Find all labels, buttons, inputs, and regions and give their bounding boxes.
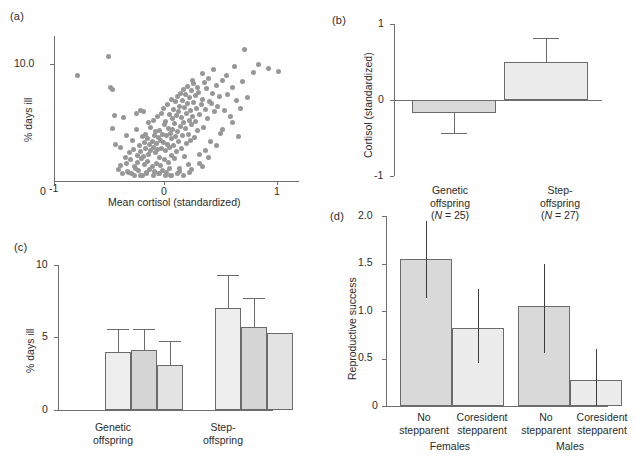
scatter-dot — [240, 79, 245, 84]
scatter-dot — [186, 132, 191, 137]
scatter-dot — [188, 108, 193, 113]
scatter-dot — [251, 70, 256, 75]
scatter-dot — [224, 73, 229, 78]
panel-c-group-1-line1: Step- — [210, 421, 235, 433]
panel-c-group-0-line2: offspring — [93, 434, 133, 446]
scatter-dot — [238, 106, 243, 111]
panel-c-bar — [241, 327, 267, 410]
scatter-dot — [236, 134, 241, 139]
scatter-dot — [169, 173, 174, 178]
scatter-dot — [242, 47, 247, 52]
panel-c-errorbar-cap — [107, 329, 129, 330]
panel-b-y-tick-neg1: -1 — [374, 169, 383, 181]
panel-c-group-1-line2: offspring — [203, 434, 243, 446]
panel-c-bar — [267, 333, 293, 410]
scatter-dot — [256, 62, 261, 67]
panel-c-bar — [157, 365, 183, 410]
panel-b-errorbar-cap — [533, 38, 559, 39]
scatter-dot — [206, 155, 211, 160]
panel-c-errorbar-cap — [243, 298, 265, 299]
scatter-dot — [151, 173, 156, 178]
panel-a-plot-area: 10.0 0 -1 0 1 — [54, 36, 299, 181]
panel-b-y-tick-mark-neg1 — [390, 176, 394, 177]
scatter-dot — [189, 167, 194, 172]
panel-d-cat-2-line1: No — [539, 411, 552, 423]
panel-c-ylabel: % days ill — [24, 329, 36, 373]
scatter-dot — [110, 126, 115, 131]
panel-b-bar — [504, 62, 588, 100]
scatter-dot — [215, 104, 220, 109]
scatter-dot — [157, 155, 162, 160]
scatter-dot — [210, 91, 215, 96]
scatter-dot — [174, 149, 179, 154]
scatter-dot — [165, 102, 170, 107]
scatter-dot — [185, 101, 190, 106]
figure-panel-grid: (a) % days ill 10.0 0 -1 0 1 Mean cortis… — [0, 0, 636, 461]
scatter-dot — [118, 145, 123, 150]
panel-d-cat-3-line2: stepparent — [577, 424, 627, 436]
scatter-dot — [171, 143, 176, 148]
panel-b-errorbar-stem — [454, 113, 455, 133]
panel-c-errorbar-stem — [170, 341, 171, 365]
scatter-dot — [134, 111, 139, 116]
panel-a-x-axis — [54, 181, 299, 182]
panel-d-errorbar-stem — [478, 289, 479, 362]
scatter-dot — [208, 139, 213, 144]
panel-c-y-tick-0: 0 — [42, 403, 48, 415]
panel-d-cat-1-line1: Coresident — [457, 411, 508, 423]
panel-b-bar: (b) Cortisol (standardized) 1 0 -1 Genet… — [320, 0, 636, 215]
panel-a-x-tick-1: 1 — [274, 185, 280, 197]
scatter-dot — [201, 125, 206, 130]
scatter-dot — [159, 111, 164, 116]
scatter-dot — [212, 109, 217, 114]
panel-b-y-tick-mark-1 — [390, 24, 394, 25]
panel-a-x-tick-neg1: -1 — [49, 182, 58, 194]
panel-d-cat-0-line1: No — [417, 411, 430, 423]
panel-b-errorbar-stem — [546, 38, 547, 62]
scatter-dot — [176, 139, 181, 144]
panel-b-errorbar-cap — [441, 133, 467, 134]
panel-c-errorbar-cap — [133, 329, 155, 330]
panel-c-errorbar-cap — [217, 275, 239, 276]
panel-a-scatter: (a) % days ill 10.0 0 -1 0 1 Mean cortis… — [0, 0, 320, 225]
panel-d-group-males: Males — [534, 440, 606, 452]
scatter-dot — [172, 121, 177, 126]
panel-d-cat-2-line2: stepparent — [521, 424, 571, 436]
panel-d-y-tick-05: 0.5 — [358, 351, 373, 363]
panel-a-y-axis — [54, 36, 55, 181]
scatter-dot — [145, 159, 150, 164]
scatter-dot — [183, 126, 188, 131]
scatter-dot — [173, 99, 178, 104]
panel-d-x-axis — [386, 406, 608, 407]
scatter-dot — [230, 120, 235, 125]
scatter-dot — [180, 133, 185, 138]
scatter-dot — [203, 148, 208, 153]
scatter-dot — [211, 67, 216, 72]
scatter-dot — [167, 166, 172, 171]
panel-a-ylabel: % days ill — [22, 98, 34, 142]
scatter-dot — [202, 80, 207, 85]
panel-b-ylabel: Cortisol (standardized) — [362, 52, 374, 158]
panel-d-y-tick-mark-10 — [382, 311, 386, 312]
scatter-dot — [141, 109, 146, 114]
panel-c-errorbar-stem — [118, 329, 119, 352]
scatter-dot — [200, 164, 205, 169]
panel-c-bar: (c) % days ill 10 5 0 Genetic offspring … — [0, 225, 320, 461]
scatter-dot — [206, 76, 211, 81]
panel-a-xlabel: Mean cortisol (standardized) — [108, 196, 240, 208]
panel-c-y-tick-mark-0 — [54, 410, 58, 411]
panel-a-label: (a) — [10, 10, 24, 22]
panel-d-y-tick-10: 1.0 — [358, 304, 373, 316]
scatter-dot — [232, 64, 237, 69]
panel-c-plot-area: 10 5 0 — [58, 265, 273, 410]
scatter-dot — [196, 90, 201, 95]
scatter-dot — [138, 173, 143, 178]
panel-c-errorbar-stem — [144, 329, 145, 349]
scatter-dot — [161, 106, 166, 111]
scatter-dot — [124, 161, 129, 166]
scatter-dot — [151, 118, 156, 123]
scatter-dot — [205, 116, 210, 121]
panel-d-bar: (d) Reproductive success 2.0 1.5 1.0 0.5… — [320, 200, 636, 461]
panel-d-cat-3: Coresident stepparent — [566, 411, 636, 436]
scatter-dot — [203, 107, 208, 112]
